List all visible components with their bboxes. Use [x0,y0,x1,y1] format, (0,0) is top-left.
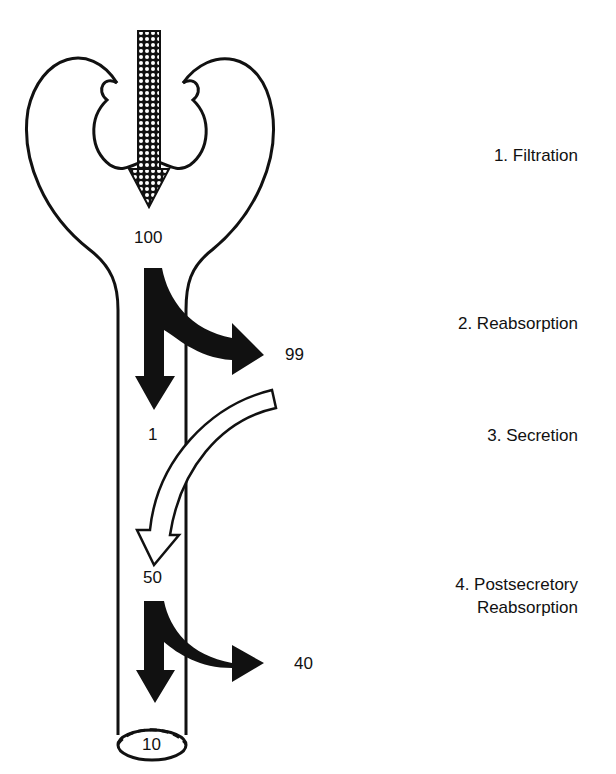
step-filtration: 1. Filtration [494,145,578,167]
filtration-arrow-icon [129,31,169,207]
step-secretion: 3. Secretion [487,425,578,447]
secretion-arrow-icon [137,390,276,565]
value-remaining: 1 [148,425,157,445]
value-excreted: 10 [142,735,161,755]
postsecretory-reabsorption-arrow-icon [136,601,264,703]
step-postsecretory-line2: Reabsorption [477,597,578,619]
value-postsecretory-reabsorbed: 40 [294,654,313,674]
value-after-secretion: 50 [143,568,162,588]
reabsorption-arrow-icon [135,268,264,410]
value-filtered: 100 [134,228,162,248]
value-reabsorbed: 99 [285,345,304,365]
step-reabsorption: 2. Reabsorption [458,313,578,335]
step-postsecretory: 4. Postsecretory [455,574,578,596]
